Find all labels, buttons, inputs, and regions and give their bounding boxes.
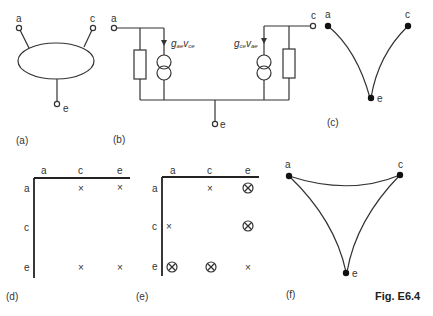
arrow-down-icon (261, 38, 267, 44)
network-box (18, 43, 94, 79)
terminal-c-icon (90, 25, 95, 30)
node-c-icon (405, 23, 411, 29)
col-header-c: c (78, 165, 83, 176)
node-e-label: e (377, 93, 383, 104)
caption-e: (e) (136, 291, 148, 302)
cell-a-e: × (117, 182, 123, 193)
left-source-expression: gaevce (171, 38, 195, 49)
node-a-label: a (285, 159, 291, 170)
terminal-e-label: e (220, 119, 226, 130)
row-header-c: c (24, 222, 29, 233)
col-header-e: e (245, 165, 251, 176)
panel-b: a gaevce c gcevae (111, 10, 316, 145)
terminal-a-icon (111, 25, 116, 30)
cell-e-e: × (117, 262, 123, 273)
panel-a: a c e (a) (16, 13, 96, 146)
terminal-c-label: c (311, 10, 316, 21)
terminal-c-icon (310, 23, 315, 28)
panel-d: a c e a c e × × × × (d) (6, 165, 130, 302)
row-header-a: a (152, 183, 158, 194)
terminal-a-label: a (16, 13, 22, 24)
node-c-label: c (405, 9, 410, 20)
figure-title: Fig. E6.4 (375, 290, 421, 302)
terminal-e-icon (212, 121, 217, 126)
caption-a: (a) (16, 135, 28, 146)
cell-e-c: × (78, 262, 84, 273)
cell-e-a-circled-x-icon (167, 262, 177, 272)
terminal-c-label: c (90, 13, 95, 24)
cell-a-c: × (78, 183, 84, 194)
right-source-expression: gcevae (234, 38, 258, 49)
cell-a-e-circled-x-icon (243, 183, 253, 193)
node-e-icon (343, 270, 349, 276)
node-e-label: e (352, 268, 358, 279)
panel-f: a c e (f) (285, 159, 403, 300)
cell-a-c: × (207, 183, 213, 194)
node-c-icon (397, 172, 403, 178)
col-header-a: a (41, 165, 47, 176)
terminal-a-icon (16, 25, 21, 30)
row-header-a: a (24, 183, 30, 194)
caption-f: (f) (286, 289, 295, 300)
node-a-icon (286, 173, 292, 179)
panel-c: a c e (c) (325, 9, 411, 128)
cell-e-c-circled-x-icon (206, 262, 216, 272)
terminal-e-icon (54, 101, 59, 106)
node-e-icon (368, 95, 374, 101)
dependent-current-source-icon (257, 55, 271, 69)
node-c-label: c (398, 159, 403, 170)
figure-e6-4: a c e (a) a gaevce c (0, 0, 433, 316)
caption-c: (c) (327, 117, 339, 128)
cell-c-a: × (166, 221, 172, 232)
terminal-a-label: a (111, 13, 117, 24)
caption-b: (b) (113, 134, 125, 145)
caption-d: (d) (6, 291, 18, 302)
node-a-icon (325, 23, 331, 29)
node-a-label: a (325, 9, 331, 20)
terminal-e-label: e (63, 103, 69, 114)
col-header-a: a (170, 165, 176, 176)
right-conductance-resistor (283, 49, 295, 78)
row-header-e: e (152, 261, 158, 272)
panel-e: a c e a c e × × × (e) (136, 165, 259, 302)
cell-e-e: × (245, 262, 251, 273)
col-header-e: e (117, 165, 123, 176)
row-header-c: c (152, 221, 157, 232)
col-header-c: c (207, 165, 212, 176)
left-conductance-resistor (134, 50, 146, 79)
arrow-down-icon (161, 40, 167, 46)
row-header-e: e (24, 262, 30, 273)
dependent-current-source-icon (157, 55, 171, 69)
cell-c-e-circled-x-icon (243, 221, 253, 231)
